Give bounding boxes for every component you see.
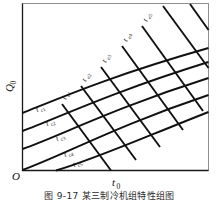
curve-te7-edge bbox=[190, 4, 209, 30]
curve-label-te3: t e3 bbox=[100, 52, 113, 65]
curve-label-te1: t e1 bbox=[60, 89, 73, 102]
curve-label-tc2-sub: c2 bbox=[50, 120, 57, 128]
curve-label-group-tc: t c1 t c2 t c3 t c4 t c5 bbox=[34, 102, 83, 170]
diagram-canvas: t c1 t c2 t c3 t c4 t c5 t bbox=[0, 0, 219, 205]
curve-label-te2: t e2 bbox=[80, 71, 93, 84]
curve-label-tc3-sub: c3 bbox=[60, 135, 67, 143]
curve-label-te1-sub: e1 bbox=[65, 90, 73, 97]
curve-label-te5-sub: e5 bbox=[146, 12, 154, 19]
curve-label-group-te: t e1 t e2 t e3 t e4 t e5 bbox=[60, 11, 154, 102]
origin-label: O bbox=[12, 170, 20, 182]
figure-container: t c1 t c2 t c3 t c4 t c5 t bbox=[0, 0, 219, 205]
curve-label-te2-sub: e2 bbox=[85, 72, 93, 79]
curve-label-te5: t e5 bbox=[141, 11, 154, 24]
curve-label-te4-sub: e4 bbox=[126, 32, 134, 39]
figure-caption: 图 9-17 某三制冷机组特性组图 bbox=[0, 189, 219, 205]
curve-label-tc1-sub: c1 bbox=[40, 106, 47, 114]
x-axis-label-main: t bbox=[112, 176, 116, 188]
curve-label-tc5: t c5 bbox=[71, 157, 83, 170]
curve-label-te3-sub: e3 bbox=[105, 53, 113, 60]
curve-label-tc4-sub: c4 bbox=[68, 151, 75, 159]
y-axis-label-sub: 0 bbox=[9, 81, 18, 85]
curve-te3 bbox=[101, 67, 160, 147]
curve-label-te4: t e4 bbox=[121, 31, 134, 44]
curve-tc3 bbox=[23, 78, 209, 149]
curve-family-tc bbox=[23, 48, 209, 171]
y-axis-label: Q 0 bbox=[3, 81, 18, 93]
